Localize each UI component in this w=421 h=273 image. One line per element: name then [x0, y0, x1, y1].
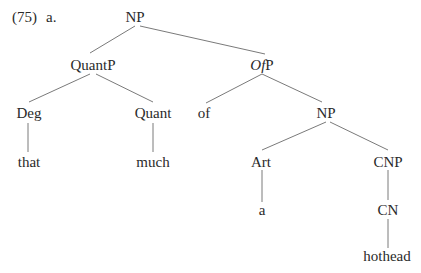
node-ofp: OfP: [250, 57, 273, 73]
example-sub: a.: [46, 9, 56, 25]
node-of: of: [198, 105, 211, 121]
edge-quantp-deg: [29, 74, 90, 102]
node-np-root: NP: [125, 9, 144, 25]
edge-quantp-quant: [96, 74, 153, 102]
node-np: NP: [316, 105, 335, 121]
edge-np-art: [262, 122, 326, 150]
edge-ofp-np: [262, 74, 322, 102]
node-art: Art: [251, 154, 272, 170]
node-ofp-rest: P: [265, 57, 273, 73]
edge-np-cnp: [330, 122, 388, 150]
node-deg: Deg: [17, 105, 42, 121]
node-quant: Quant: [135, 105, 172, 121]
node-quantp: QuantP: [71, 57, 116, 73]
syntax-tree: (75) a. NP QuantP OfP Deg Quant of NP th…: [0, 0, 421, 273]
tree-nodes: NP QuantP OfP Deg Quant of NP that much …: [17, 9, 412, 264]
node-cnp: CNP: [373, 154, 402, 170]
leaf-hothead: hothead: [363, 248, 411, 264]
leaf-much: much: [136, 154, 170, 170]
edge-ofp-of: [206, 74, 262, 103]
example-number: (75): [12, 9, 37, 26]
edge-np-ofp: [140, 26, 265, 54]
node-cn: CN: [378, 202, 399, 218]
leaf-a: a: [259, 202, 266, 218]
leaf-that: that: [18, 154, 41, 170]
edge-np-quantp: [90, 26, 135, 53]
